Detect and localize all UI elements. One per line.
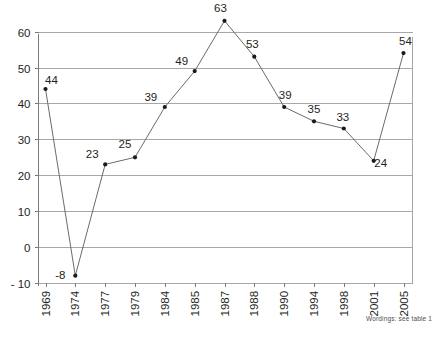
point-label-1974: -8 — [55, 269, 65, 281]
chart-container: 6050403020100- 10 44-8232539496353393533… — [0, 0, 436, 337]
data-point-1984 — [163, 105, 167, 109]
data-point-1987 — [222, 19, 226, 23]
x-axis-labels: 1969197419771979198419851987198819901994… — [40, 290, 410, 316]
y-tick-label-30: 30 — [18, 134, 31, 146]
point-label-2005: 54 — [399, 35, 412, 47]
x-label-2005: 2005 — [398, 291, 410, 317]
point-label-1979: 25 — [119, 138, 132, 150]
point-label-1969: 44 — [45, 74, 58, 86]
y-tick-label-40: 40 — [18, 98, 31, 110]
x-label-1977: 1977 — [99, 291, 111, 317]
data-point-1985 — [193, 69, 197, 73]
data-point-1990 — [282, 105, 286, 109]
data-point-1977 — [103, 162, 107, 166]
x-label-1987: 1987 — [219, 291, 231, 317]
point-label-1987: 63 — [214, 2, 227, 14]
y-axis-ticks: 6050403020100- 10 — [11, 27, 39, 290]
x-label-1984: 1984 — [159, 290, 171, 316]
x-label-1994: 1994 — [308, 290, 320, 316]
series-line — [46, 21, 404, 276]
x-label-1974: 1974 — [69, 290, 81, 316]
point-label-1984: 39 — [144, 91, 157, 103]
point-label-1988: 53 — [246, 38, 259, 50]
point-label-1994: 35 — [308, 103, 321, 115]
x-label-1990: 1990 — [278, 291, 290, 317]
data-point-1998 — [342, 126, 346, 130]
point-label-1977: 23 — [86, 148, 99, 160]
x-label-1998: 1998 — [338, 291, 350, 317]
point-value-labels: 44-82325394963533935332454 — [45, 2, 412, 281]
point-label-1990: 39 — [279, 89, 292, 101]
data-point-1988 — [252, 55, 256, 59]
point-label-2001: 24 — [374, 157, 387, 169]
data-point-1974 — [73, 274, 77, 278]
y-tick-label-0: 0 — [24, 242, 30, 254]
data-point-1994 — [312, 119, 316, 123]
x-label-1969: 1969 — [40, 291, 52, 317]
point-label-1985: 49 — [175, 55, 188, 67]
data-point-1969 — [43, 87, 47, 91]
point-label-1998: 33 — [336, 111, 349, 123]
y-tick-label-10: 10 — [18, 206, 31, 218]
x-label-1988: 1988 — [248, 291, 260, 317]
x-label-1985: 1985 — [189, 291, 201, 317]
x-label-1979: 1979 — [129, 291, 141, 317]
data-point-1979 — [133, 155, 137, 159]
line-chart: 6050403020100- 10 44-8232539496353393533… — [0, 0, 436, 337]
y-tick-label-20: 20 — [18, 170, 31, 182]
x-label-2001: 2001 — [368, 291, 380, 317]
y-tick-label--10: - 10 — [11, 278, 31, 290]
footnote-label: Wordings: see table 1 — [366, 315, 432, 323]
data-point-2005 — [401, 51, 405, 55]
y-tick-label-50: 50 — [18, 63, 31, 75]
y-tick-label-60: 60 — [18, 27, 31, 39]
